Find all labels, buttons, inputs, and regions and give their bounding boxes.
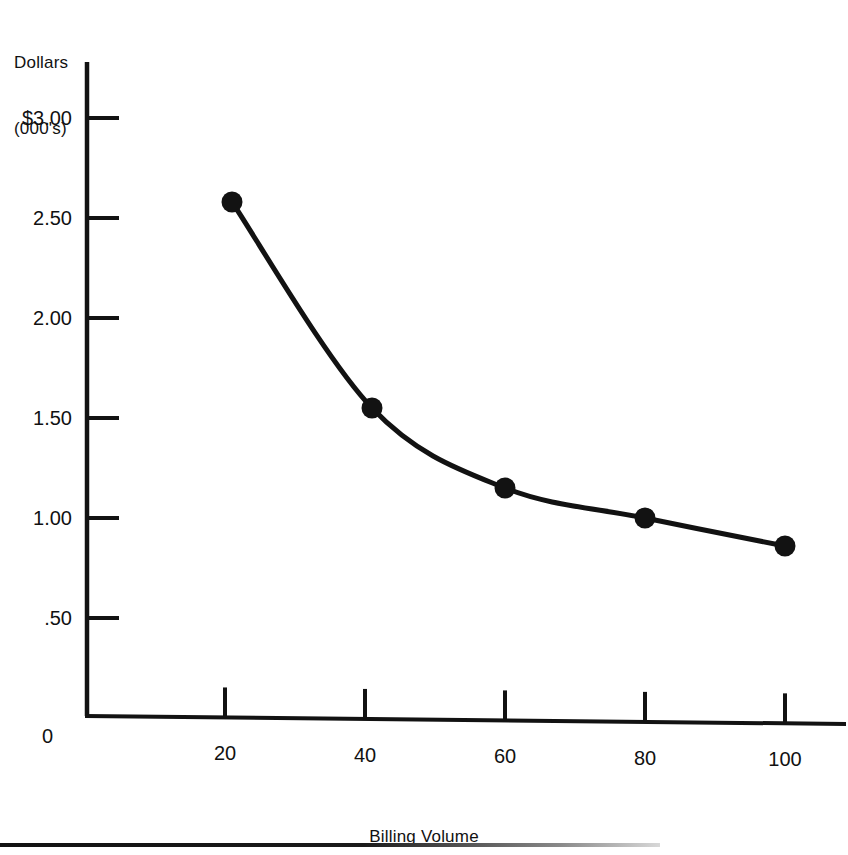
data-point-marker: [775, 536, 796, 557]
chart-figure: Dollars (000's) Billing Volume (000's) 0…: [0, 0, 848, 855]
data-series-markers: [222, 192, 796, 557]
data-point-marker: [362, 398, 383, 419]
page-bottom-rule: [0, 843, 660, 847]
data-point-marker: [635, 508, 656, 529]
data-point-marker: [495, 478, 516, 499]
axis-lines: [85, 62, 846, 724]
axis-tick-marks: [87, 118, 785, 723]
plot-area: [0, 0, 848, 855]
data-point-marker: [222, 192, 243, 213]
